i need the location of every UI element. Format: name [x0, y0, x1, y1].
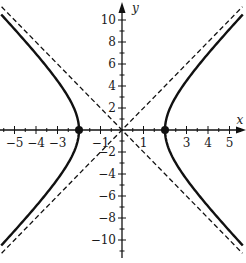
y-tick-label: 4 — [108, 79, 116, 93]
y-tick-label: −4 — [98, 167, 116, 181]
vertex-right-point — [161, 126, 169, 134]
hyperbola-chart: −5−4−3−11345−10−8−6−4−2246810xy — [0, 0, 246, 263]
x-tick-label: 3 — [183, 136, 191, 150]
x-tick-label: 4 — [204, 136, 212, 150]
x-tick-label: 1 — [140, 136, 148, 150]
y-tick-label: −6 — [98, 189, 116, 203]
y-tick-label: −10 — [91, 233, 116, 247]
y-tick-label: −2 — [98, 145, 116, 159]
y-tick-label: 8 — [108, 35, 116, 49]
y-tick-label: −8 — [98, 211, 116, 225]
y-tick-label: 2 — [108, 101, 116, 115]
x-axis-label: x — [237, 113, 244, 127]
vertex-left-point — [75, 126, 83, 134]
y-tick-label: 6 — [108, 57, 116, 71]
y-tick-label: 10 — [101, 13, 116, 27]
x-tick-label: −5 — [6, 136, 24, 150]
x-tick-label: −4 — [27, 136, 45, 150]
x-axis-arrow-icon — [236, 127, 246, 134]
axis-tick-labels: −5−4−3−11345−10−8−6−4−2246810xy — [6, 1, 244, 247]
y-axis-label: y — [131, 1, 139, 15]
x-tick-label: −3 — [49, 136, 67, 150]
x-tick-label: 5 — [226, 136, 234, 150]
y-axis-arrow-icon — [119, 2, 126, 13]
